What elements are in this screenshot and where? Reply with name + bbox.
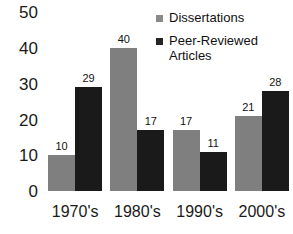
legend-swatch-icon bbox=[156, 15, 163, 22]
legend-swatch-icon bbox=[156, 38, 163, 45]
x-axis: 1970's1980's1990's2000's bbox=[44, 193, 293, 234]
chart-legend: DissertationsPeer-ReviewedArticles bbox=[156, 10, 291, 71]
bar-value-label: 17 bbox=[180, 116, 192, 127]
bar[interactable] bbox=[262, 91, 289, 191]
y-axis-tick-label: 10 bbox=[19, 147, 38, 164]
y-axis-tick-label: 40 bbox=[19, 40, 38, 57]
bar-value-label: 29 bbox=[83, 73, 95, 84]
x-axis-tick-label: 2000's bbox=[231, 203, 293, 221]
bar-group: 1029 bbox=[44, 0, 106, 191]
y-axis-tick-label: 20 bbox=[19, 112, 38, 129]
bar-value-label: 21 bbox=[242, 102, 254, 113]
legend-entry[interactable]: Dissertations bbox=[156, 10, 291, 25]
x-axis-tick-label: 1990's bbox=[169, 203, 231, 221]
bar-value-label: 28 bbox=[269, 77, 281, 88]
legend-entry[interactable]: Peer-ReviewedArticles bbox=[156, 33, 291, 63]
bar-value-label: 17 bbox=[145, 116, 157, 127]
bar[interactable] bbox=[173, 130, 200, 191]
chart-figure: 01020304050 1029401717112128 1970's1980'… bbox=[0, 0, 293, 234]
bar-value-label: 11 bbox=[207, 138, 218, 149]
y-axis-tick-label: 0 bbox=[29, 183, 38, 200]
y-axis: 01020304050 bbox=[0, 0, 44, 234]
bar-slot: 29 bbox=[75, 0, 102, 191]
bar[interactable] bbox=[200, 152, 227, 191]
bar[interactable] bbox=[75, 87, 102, 191]
bar[interactable] bbox=[137, 130, 164, 191]
legend-label: Dissertations bbox=[169, 10, 291, 25]
bar[interactable] bbox=[48, 155, 75, 191]
x-axis-tick-label: 1970's bbox=[44, 203, 106, 221]
y-axis-tick-label: 30 bbox=[19, 76, 38, 93]
y-axis-tick-label: 50 bbox=[19, 4, 38, 21]
legend-label: Peer-Reviewed bbox=[169, 33, 291, 48]
bar-value-label: 10 bbox=[56, 141, 68, 152]
bar-value-label: 40 bbox=[118, 34, 130, 45]
bar[interactable] bbox=[235, 116, 262, 191]
legend-label: Articles bbox=[169, 48, 291, 63]
bar-slot: 40 bbox=[110, 0, 137, 191]
bar-slot: 10 bbox=[48, 0, 75, 191]
x-axis-tick-label: 1980's bbox=[106, 203, 168, 221]
bar[interactable] bbox=[110, 48, 137, 191]
